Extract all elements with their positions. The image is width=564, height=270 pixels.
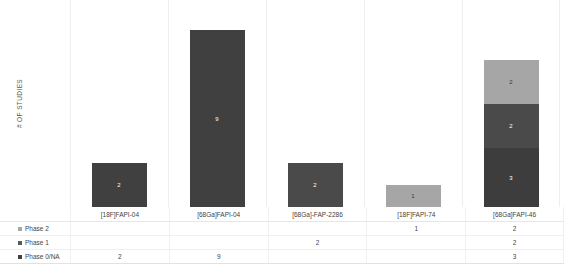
bar-column-68ga-fap-2286: 2: [266, 0, 364, 207]
table-cell: [169, 222, 268, 235]
category-label: [18F]FAPI-04: [101, 211, 139, 218]
bar-stack: 2: [288, 163, 343, 207]
cell-value: 2: [118, 253, 122, 260]
table-header-row: [18F]FAPI-04 [68Ga]FAPI-04 [68Ga]-FAP-22…: [0, 207, 564, 222]
category-label-cell: [68Ga]FAPI-04: [169, 207, 268, 221]
table-cell: [366, 250, 465, 263]
table-cell: 2: [268, 236, 367, 249]
bar-column-68ga-fapi-04: 9: [168, 0, 266, 207]
bar-segment-phase1[interactable]: 2: [484, 104, 539, 148]
cell-value: 9: [217, 253, 221, 260]
bar-value-label: 2: [509, 79, 512, 85]
table-cell: 2: [70, 250, 169, 263]
y-axis-title: # OF STUDIES: [8, 0, 32, 207]
bar-segment-phase2[interactable]: 1: [386, 185, 441, 207]
category-label-cell: [68Ga]-FAP-2286: [268, 207, 367, 221]
table-row: Phase 0/NA 2 9 3: [0, 250, 564, 264]
bar-stack: 9: [190, 30, 245, 207]
cell-value: 2: [316, 239, 320, 246]
table-cell: 3: [465, 250, 564, 263]
bar-column-18f-fapi-04: 2: [70, 0, 168, 207]
bar-value-label: 3: [509, 175, 512, 181]
table-row: Phase 1 2 2: [0, 236, 564, 250]
table-row-cells: 2 9 3: [70, 250, 564, 263]
table-cell: [268, 222, 367, 235]
legend-label: Phase 1: [25, 239, 49, 246]
bar-column-68ga-fapi-46: 2 2 3: [462, 0, 560, 207]
bar-segment-phase0[interactable]: 9: [190, 30, 245, 207]
table-cell: [70, 236, 169, 249]
cell-value: 1: [414, 225, 418, 232]
cell-value: 3: [513, 253, 517, 260]
bar-stack: 2: [92, 163, 147, 207]
bar-segment-phase0[interactable]: 2: [92, 163, 147, 207]
category-label-cell: [18F]FAPI-04: [70, 207, 169, 221]
chart-screenshot: # OF STUDIES 2 9: [0, 0, 564, 270]
bar-stack: 1: [386, 185, 441, 207]
table-cell: 9: [169, 250, 268, 263]
bar-value-label: 1: [411, 193, 414, 199]
plot-area: 2 9 2: [70, 0, 560, 207]
bar-value-label: 9: [215, 116, 218, 122]
cell-value: 2: [513, 225, 517, 232]
bar-series-group: 2 9 2: [70, 0, 560, 207]
table-cell: 2: [465, 236, 564, 249]
table-cell: [70, 222, 169, 235]
table-cell: [366, 236, 465, 249]
legend-label: Phase 0/NA: [25, 253, 60, 260]
bar-segment-phase1[interactable]: 2: [288, 163, 343, 207]
cell-value: 2: [513, 239, 517, 246]
category-label: [68Ga]FAPI-04: [197, 211, 240, 218]
table-cell: [169, 236, 268, 249]
legend-swatch-icon: [18, 241, 22, 245]
legend-item-phase-2[interactable]: Phase 2: [0, 225, 70, 232]
category-label-cell: [18F]FAPI-74: [366, 207, 465, 221]
bar-value-label: 2: [117, 182, 120, 188]
bar-segment-phase0[interactable]: 3: [484, 148, 539, 207]
legend-label: Phase 2: [25, 225, 49, 232]
bar-stack: 2 2 3: [484, 60, 539, 207]
table-cell: [268, 250, 367, 263]
table-cell: 2: [465, 222, 564, 235]
table-row-cells: 2 2: [70, 236, 564, 249]
legend-swatch-icon: [18, 255, 22, 259]
y-axis-title-label: # OF STUDIES: [17, 79, 24, 128]
table-row: Phase 2 1 2: [0, 222, 564, 236]
category-label: [18F]FAPI-74: [397, 211, 435, 218]
table-header-cells: [18F]FAPI-04 [68Ga]FAPI-04 [68Ga]-FAP-22…: [70, 207, 564, 221]
bar-segment-phase2[interactable]: 2: [484, 60, 539, 104]
bar-column-18f-fapi-74: 1: [364, 0, 462, 207]
bar-value-label: 2: [313, 182, 316, 188]
legend-item-phase-0-na[interactable]: Phase 0/NA: [0, 253, 70, 260]
category-label: [68Ga]-FAP-2286: [292, 211, 343, 218]
legend-item-phase-1[interactable]: Phase 1: [0, 239, 70, 246]
category-label: [68Ga]FAPI-46: [493, 211, 536, 218]
legend-swatch-icon: [18, 227, 22, 231]
bar-value-label: 2: [509, 123, 512, 129]
data-table: [18F]FAPI-04 [68Ga]FAPI-04 [68Ga]-FAP-22…: [0, 207, 564, 270]
table-cell: 1: [366, 222, 465, 235]
table-row-cells: 1 2: [70, 222, 564, 235]
category-label-cell: [68Ga]FAPI-46: [465, 207, 564, 221]
